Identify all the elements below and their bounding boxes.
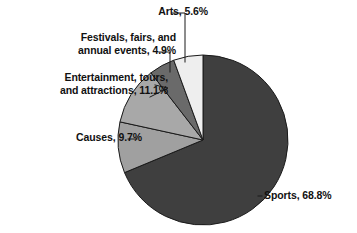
pie-label-festivals-line1: Festivals, fairs, and <box>44 31 176 44</box>
pie-chart: Arts, 5.6% Festivals, fairs, and annual … <box>0 0 357 233</box>
pie-label-arts-text: Arts, 5.6% <box>112 5 208 18</box>
pie-label-festivals: Festivals, fairs, and annual events, 4.9… <box>44 31 176 57</box>
pie-label-festivals-line2: annual events, 4.9% <box>44 44 176 57</box>
pie-label-entertainment-line2: and attractions, 11.1% <box>8 84 168 97</box>
pie-label-arts: Arts, 5.6% <box>112 5 208 18</box>
pie-label-entertainment: Entertainment, tours, and attractions, 1… <box>8 71 168 97</box>
pie-label-sports-text: Sports, 68.8% <box>264 189 354 202</box>
pie-label-entertainment-line1: Entertainment, tours, <box>8 71 168 84</box>
pie-label-sports: Sports, 68.8% <box>264 189 354 202</box>
pie-label-causes-text: Causes, 9.7% <box>36 131 142 144</box>
pie-label-causes: Causes, 9.7% <box>36 131 142 144</box>
